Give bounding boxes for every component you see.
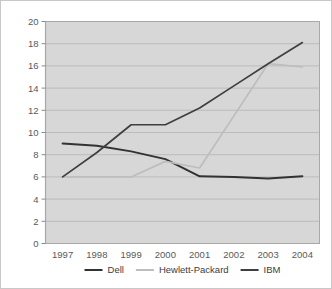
- y-axis-tick-label: 14: [28, 83, 39, 94]
- x-axis-tick-label: 1997: [52, 249, 73, 260]
- y-axis-tick-label: 2: [33, 216, 38, 227]
- line-chart-figure: 02468101214161820 1997199819992000200120…: [1, 1, 332, 289]
- y-axis-tick-label: 8: [33, 149, 38, 160]
- x-axis-tick-label: 2003: [258, 249, 279, 260]
- x-axis-tick-label: 2002: [223, 249, 244, 260]
- x-axis-tick-label: 2000: [155, 249, 176, 260]
- y-axis-tick-label: 12: [28, 105, 39, 116]
- x-axis-tick-label: 2001: [189, 249, 210, 260]
- chart-svg: 02468101214161820 1997199819992000200120…: [1, 1, 332, 289]
- legend-label-dell: Dell: [108, 264, 124, 275]
- y-axis-tick-label: 4: [33, 194, 38, 205]
- y-axis-tick-label: 18: [28, 38, 39, 49]
- y-axis-tick-label: 10: [28, 127, 39, 138]
- y-axis-tick-label: 20: [28, 16, 39, 27]
- y-axis-tick-label: 0: [33, 238, 38, 249]
- y-axis-tick-label: 6: [33, 171, 38, 182]
- chart-page: 02468101214161820 1997199819992000200120…: [0, 0, 332, 289]
- legend-label-hewlett-packard: Hewlett-Packard: [159, 264, 229, 275]
- x-axis-tick-label: 1998: [86, 249, 107, 260]
- x-axis-tick-label: 2004: [292, 249, 313, 260]
- x-axis-tick-label: 1999: [121, 249, 142, 260]
- legend-label-ibm: IBM: [264, 264, 281, 275]
- y-axis-tick-label: 16: [28, 60, 39, 71]
